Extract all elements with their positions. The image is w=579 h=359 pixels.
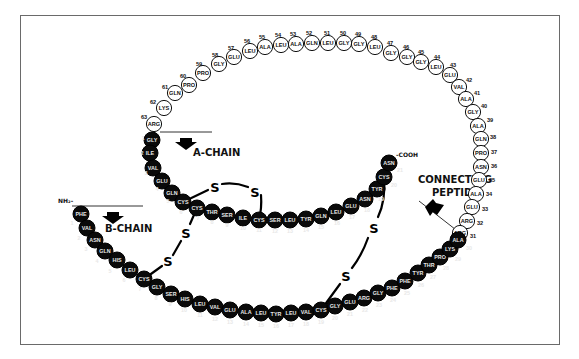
- residue-number: 7: [139, 286, 142, 292]
- residue-number: 16: [334, 220, 340, 226]
- residue-number: 56: [244, 38, 250, 44]
- residue-name: ALA: [460, 96, 472, 102]
- disulfide-a20-b19-segment: [352, 238, 368, 268]
- residue-number: 3: [145, 170, 148, 176]
- residue-connecting-peptide-51: LEU51: [320, 30, 335, 51]
- residue-number: 21: [397, 167, 403, 173]
- residue-number: 33: [482, 206, 488, 212]
- residue-name: PRO: [183, 82, 196, 88]
- residue-name: ALA: [240, 309, 251, 315]
- residue-number: 5: [109, 268, 112, 274]
- residue-name: GLY: [373, 290, 384, 296]
- residue-connecting-peptide-40: GLY40: [465, 103, 487, 120]
- insulin-proinsulin-diagram: S S S S S S A-CHAIN B-CHAIN CONNECTING P…: [0, 0, 579, 359]
- residue-number: 57: [228, 45, 234, 51]
- residue-connecting-peptide-60: PRO60: [180, 73, 197, 93]
- residue-name: LEU: [195, 301, 206, 307]
- residue-name: ALA: [259, 44, 271, 50]
- residue-number: 17: [349, 214, 355, 220]
- residue-b-chain-15: LEU15: [253, 305, 269, 328]
- residue-name: GLY: [468, 109, 479, 115]
- sulfur-atom: S: [163, 254, 172, 269]
- n-terminus-label: NH₂-: [58, 197, 74, 204]
- sulfur-atom: S: [250, 185, 259, 200]
- residue-a-chain-17: GLU17: [343, 198, 359, 220]
- residue-name: GLN: [475, 136, 487, 142]
- residue-number: 3: [85, 246, 88, 252]
- residue-connecting-peptide-46: GLY46: [399, 44, 414, 65]
- residue-name: GLN: [306, 40, 318, 46]
- residue-number: 51: [324, 30, 330, 36]
- sulfur-atom: S: [210, 180, 219, 195]
- residue-connecting-peptide-57: GLU57: [226, 45, 241, 65]
- residue-number: 39: [487, 117, 493, 123]
- residue-connecting-peptide-45: GLY45: [413, 49, 428, 70]
- residue-name: GLN: [169, 90, 181, 96]
- residue-number: 19: [378, 196, 384, 202]
- residue-connecting-peptide-41: ALA41: [458, 90, 480, 107]
- residue-name: ILE: [146, 150, 155, 156]
- residue-number: 1: [142, 135, 145, 141]
- residue-a-chain-9: SER9: [219, 207, 235, 228]
- residue-name: CYS: [138, 276, 149, 282]
- residue-number: 30: [466, 245, 472, 251]
- residue-number: 15: [318, 224, 324, 230]
- residue-connecting-peptide-49: GLY49: [351, 31, 366, 52]
- residue-number: 16: [273, 323, 279, 329]
- disulfide-a6-a11-segment: [222, 183, 248, 187]
- residue-name: THR: [206, 209, 217, 215]
- residue-name: GLU: [344, 299, 355, 305]
- residue-name: TYR: [271, 311, 282, 317]
- residue-b-chain-18: VAL18: [298, 304, 314, 327]
- residue-number: 54: [275, 32, 282, 38]
- residue-connecting-peptide-52: GLN52: [304, 30, 319, 51]
- residue-b-chain-20: GLY20: [327, 298, 343, 321]
- sulfur-atom: S: [181, 226, 190, 241]
- residue-number: 42: [466, 77, 472, 83]
- residue-number: 31: [470, 233, 476, 239]
- residue-number: 44: [434, 54, 441, 60]
- residue-number: 22: [362, 307, 368, 313]
- residue-name: ILE: [239, 215, 248, 221]
- residue-number: 37: [491, 149, 497, 155]
- residue-connecting-peptide-59: PRO59: [195, 61, 210, 81]
- residue-number: 2: [141, 150, 144, 156]
- residue-b-chain-16: TYR16: [268, 306, 284, 329]
- residue-number: 41: [474, 90, 480, 96]
- residue-name: GLU: [466, 204, 478, 210]
- residue-name: GLY: [152, 284, 163, 290]
- residue-b-chain-10: HIS10: [177, 291, 193, 313]
- residue-number: 49: [355, 31, 361, 37]
- residue-name: LEU: [256, 310, 267, 316]
- residue-a-chain-8: THR8: [204, 204, 220, 225]
- residue-connecting-peptide-43: GLU43: [442, 62, 457, 83]
- residue-connecting-peptide-33: GLU33: [464, 199, 488, 214]
- residue-number: 12: [272, 228, 278, 234]
- a-chain-label: A-CHAIN: [193, 147, 240, 158]
- residue-name: LEU: [331, 209, 342, 215]
- c-terminus-label: -COOH: [396, 151, 418, 158]
- residue-number: 9: [169, 301, 172, 307]
- residue-number: 62: [150, 99, 156, 105]
- residue-number: 34: [486, 191, 493, 197]
- residue-name: ALA: [472, 123, 484, 129]
- residue-name: GLU: [444, 72, 456, 78]
- residue-number: 61: [162, 84, 168, 90]
- residue-name: HIS: [181, 296, 190, 302]
- residue-name: ASN: [89, 237, 100, 243]
- residue-name: LEU: [369, 44, 380, 50]
- residue-name: PHE: [75, 211, 86, 217]
- residue-name: LEU: [125, 267, 136, 273]
- residue-name: GLN: [99, 248, 110, 254]
- residue-name: GLY: [214, 61, 225, 67]
- sulfur-atom: S: [341, 269, 350, 284]
- residue-number: 1: [71, 220, 74, 226]
- residue-name: GLY: [386, 50, 397, 56]
- residue-number: 28: [443, 265, 449, 271]
- residue-a-chain-13: LEU13: [282, 212, 298, 234]
- residue-number: 10: [240, 225, 246, 231]
- residue-number: 63: [141, 114, 147, 120]
- residue-number: 29: [455, 256, 461, 262]
- residue-number: 5: [167, 198, 170, 204]
- residue-name: VAL: [148, 165, 159, 171]
